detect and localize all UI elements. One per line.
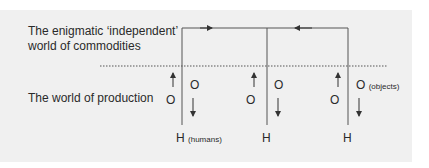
human-label-1: H (humans)	[176, 131, 222, 145]
human-note-1: (humans)	[188, 135, 222, 144]
human-h-2: H	[262, 131, 271, 145]
human-label-2: H	[262, 131, 271, 145]
object-o-3: O	[356, 78, 365, 92]
object-left-2: O	[246, 93, 255, 107]
object-right-1: O	[190, 78, 199, 92]
object-right-2: O	[274, 78, 283, 92]
upper-label-line-1: The enigmatic ‘independent’	[28, 24, 178, 39]
human-h-3: H	[343, 131, 352, 145]
objects-note: (objects)	[369, 82, 400, 91]
upper-world-label: The enigmatic ‘independent’ world of com…	[28, 24, 178, 54]
object-left-1: O	[166, 93, 175, 107]
object-left-3: O	[330, 93, 339, 107]
human-label-3: H	[343, 131, 352, 145]
human-h-1: H	[176, 131, 185, 145]
lower-label: The world of production	[28, 91, 153, 106]
object-right-3: O (objects)	[356, 78, 399, 92]
upper-label-line-2: world of commodities	[28, 39, 178, 54]
